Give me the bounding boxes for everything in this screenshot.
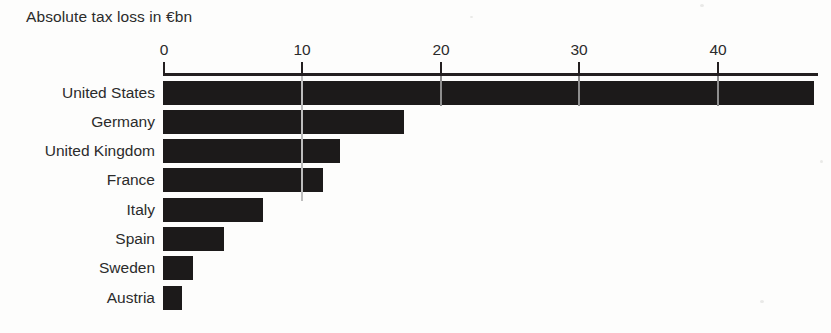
tick-stub-20 bbox=[440, 76, 442, 106]
x-tick-20 bbox=[440, 62, 442, 74]
bar-italy bbox=[163, 198, 263, 222]
bar-sweden bbox=[163, 256, 193, 280]
category-label-united-kingdom: United Kingdom bbox=[45, 142, 155, 160]
paper-fleck bbox=[700, 4, 704, 7]
x-tick-0 bbox=[163, 62, 165, 74]
gridline-10 bbox=[301, 76, 303, 201]
x-tick-40 bbox=[717, 62, 719, 74]
category-label-italy: Italy bbox=[127, 201, 155, 219]
category-label-austria: Austria bbox=[107, 289, 155, 307]
plot-area: 0 10 20 30 40 United States Germany Unit… bbox=[0, 0, 831, 333]
bar-austria bbox=[163, 286, 182, 310]
bar-chart: Absolute tax loss in €bn 0 10 20 30 40 bbox=[0, 0, 831, 333]
x-tick-label-30: 30 bbox=[570, 41, 587, 59]
bar-spain bbox=[163, 227, 224, 251]
x-tick-label-20: 20 bbox=[432, 41, 449, 59]
x-tick-10 bbox=[301, 62, 303, 74]
category-label-sweden: Sweden bbox=[99, 259, 155, 277]
bar-germany bbox=[163, 110, 404, 134]
x-tick-label-40: 40 bbox=[709, 41, 726, 59]
x-tick-label-10: 10 bbox=[293, 41, 310, 59]
tick-stub-30 bbox=[578, 76, 580, 106]
x-axis-line bbox=[163, 73, 818, 76]
category-axis: United States Germany United Kingdom Fra… bbox=[0, 0, 155, 333]
tick-stub-40 bbox=[717, 76, 719, 106]
x-tick-30 bbox=[578, 62, 580, 74]
category-label-united-states: United States bbox=[62, 84, 155, 102]
paper-fleck bbox=[470, 16, 473, 18]
paper-fleck bbox=[820, 160, 823, 163]
paper-fleck bbox=[760, 300, 764, 303]
category-label-spain: Spain bbox=[115, 230, 155, 248]
bar-france bbox=[163, 168, 323, 192]
category-label-germany: Germany bbox=[91, 113, 155, 131]
bar-united-kingdom bbox=[163, 139, 340, 163]
x-tick-label-0: 0 bbox=[160, 41, 169, 59]
category-label-france: France bbox=[107, 171, 155, 189]
